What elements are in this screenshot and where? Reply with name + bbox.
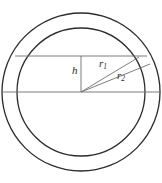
radius-r1-line [81,57,139,92]
radius-r2-label: r2 [117,70,125,83]
radius-r1-label-subscript: 1 [103,62,107,71]
height-label-text: h [72,64,78,76]
radius-r2-line [81,64,150,92]
radius-r1-label: r1 [99,58,107,71]
radius-r2-label-subscript: 2 [121,74,125,83]
height-label: h [72,65,78,76]
geometry-figure: h r1 r2 [0,0,162,183]
geometry-canvas [0,0,162,183]
